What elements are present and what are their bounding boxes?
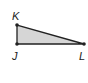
vertex-j-point [15, 42, 19, 46]
vertex-l-point [82, 42, 86, 46]
triangle-diagram: K J L [0, 0, 88, 83]
vertex-l-label: L [79, 50, 85, 62]
vertex-k-label: K [12, 10, 20, 22]
vertex-j-label: J [11, 50, 18, 62]
triangle-jkl [17, 25, 84, 44]
vertex-k-point [15, 23, 19, 27]
